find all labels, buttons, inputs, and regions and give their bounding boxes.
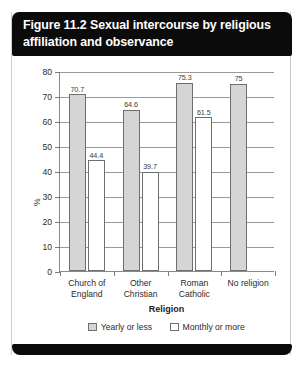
plot-area: 0102030405060708070.744.4Church ofEnglan… <box>59 72 274 272</box>
legend-label: Yearly or less <box>101 322 152 332</box>
bar-value-label: 75.3 <box>178 73 192 82</box>
bar: 39.7 <box>142 172 159 271</box>
x-tick-mark <box>168 271 169 276</box>
x-tick-label-line: Church of <box>60 278 114 289</box>
x-tick-mark <box>114 271 115 276</box>
y-axis-label: % <box>32 198 42 206</box>
bar: 75.3 <box>176 83 193 271</box>
chart-plot-region: % 0102030405060708070.744.4Church ofEngl… <box>12 56 292 344</box>
bar-value-label: 44.4 <box>89 151 103 160</box>
bar-value-label: 75 <box>235 74 243 83</box>
figure-footer-bar <box>12 344 292 355</box>
x-tick-label-line: Other <box>114 278 168 289</box>
y-tick-mark <box>55 247 60 248</box>
x-axis-title: Religion <box>59 304 274 314</box>
bar: 70.7 <box>69 94 86 271</box>
x-tick-label: Church ofEngland <box>60 278 114 299</box>
figure-title-bar: Figure 11.2 Sexual intercourse by religi… <box>12 12 292 56</box>
y-tick-mark <box>55 197 60 198</box>
y-tick-label: 0 <box>47 267 52 277</box>
legend-swatch <box>170 323 179 332</box>
bar: 75 <box>230 84 247 272</box>
chart-legend: Yearly or lessMonthly or more <box>59 322 274 332</box>
y-tick-mark <box>55 97 60 98</box>
y-tick-label: 30 <box>42 192 52 202</box>
bar: 61.5 <box>195 117 212 271</box>
y-tick-label: 70 <box>42 92 52 102</box>
x-tick-mark <box>60 271 61 276</box>
x-tick-label-line: Christian <box>114 289 168 300</box>
x-tick-label-line: No religion <box>221 278 275 289</box>
figure-card: Figure 11.2 Sexual intercourse by religi… <box>11 12 291 355</box>
x-tick-label-line: Roman <box>168 278 222 289</box>
x-tick-mark <box>275 271 276 276</box>
y-tick-mark <box>55 122 60 123</box>
y-tick-mark <box>55 222 60 223</box>
legend-item: Yearly or less <box>88 322 152 332</box>
bar-value-label: 61.5 <box>197 108 211 117</box>
legend-label: Monthly or more <box>183 322 245 332</box>
bar-value-label: 64.6 <box>124 100 138 109</box>
x-tick-label: OtherChristian <box>114 278 168 299</box>
y-tick-label: 20 <box>42 217 52 227</box>
x-tick-label-line: Catholic <box>168 289 222 300</box>
x-tick-label: RomanCatholic <box>168 278 222 299</box>
y-tick-mark <box>55 72 60 73</box>
figure-title: Figure 11.2 Sexual intercourse by religi… <box>23 17 281 50</box>
x-tick-label-line: England <box>60 289 114 300</box>
bar: 44.4 <box>88 160 105 271</box>
y-tick-label: 10 <box>42 242 52 252</box>
y-tick-label: 50 <box>42 142 52 152</box>
x-tick-mark <box>221 271 222 276</box>
bar-value-label: 39.7 <box>143 162 157 171</box>
bar-value-label: 70.7 <box>70 85 84 94</box>
y-tick-label: 40 <box>42 167 52 177</box>
gridline <box>60 72 274 73</box>
y-tick-mark <box>55 172 60 173</box>
y-tick-label: 80 <box>42 67 52 77</box>
bar: 64.6 <box>123 110 140 272</box>
y-tick-label: 60 <box>42 117 52 127</box>
x-tick-label: No religion <box>221 278 275 289</box>
legend-swatch <box>88 323 97 332</box>
legend-item: Monthly or more <box>170 322 245 332</box>
y-tick-mark <box>55 147 60 148</box>
